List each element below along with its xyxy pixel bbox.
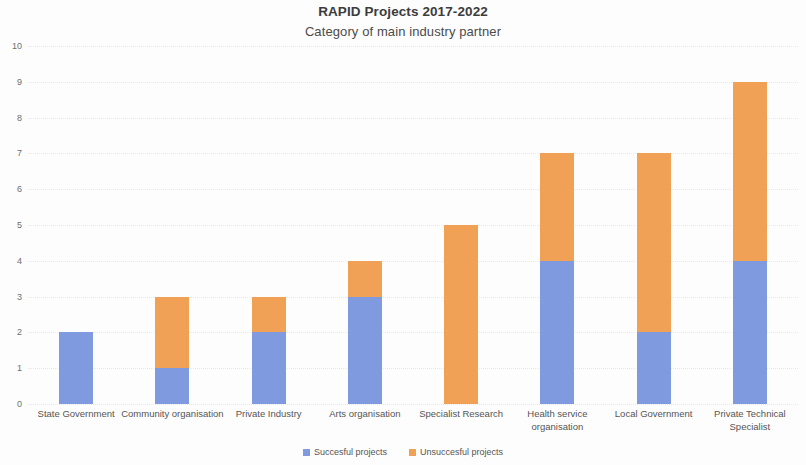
- gridline: [28, 404, 798, 406]
- y-axis-tick-label: 0: [17, 399, 22, 409]
- bar-segment-unsuccessful[interactable]: [733, 82, 767, 261]
- bar-group[interactable]: [59, 332, 93, 404]
- chart-title: RAPID Projects 2017-2022: [0, 4, 806, 21]
- bar-series-container: [28, 46, 798, 404]
- chart-page: RAPID Projects 2017-2022 Category of mai…: [0, 0, 806, 465]
- chart-subtitle: Category of main industry partner: [0, 24, 806, 40]
- y-axis: 109876543210: [0, 46, 26, 404]
- bar-group[interactable]: [733, 82, 767, 404]
- x-axis: State GovernmentCommunity organisationPr…: [28, 408, 798, 448]
- legend-swatch-icon: [409, 449, 416, 456]
- bar-segment-successful[interactable]: [733, 261, 767, 404]
- x-axis-tick-label: Community organisation: [120, 408, 224, 421]
- x-axis-tick-label: Private Technical Specialist: [698, 408, 802, 434]
- x-axis-tick-label: Arts organisation: [313, 408, 417, 421]
- bar-group[interactable]: [155, 297, 189, 404]
- bar-group[interactable]: [252, 297, 286, 404]
- y-axis-tick-label: 5: [17, 220, 22, 230]
- x-axis-tick-label: Health service organisation: [505, 408, 609, 434]
- bar-group[interactable]: [444, 225, 478, 404]
- y-axis-tick-label: 10: [12, 41, 22, 51]
- bar-group[interactable]: [540, 153, 574, 404]
- bar-segment-unsuccessful[interactable]: [540, 153, 574, 260]
- x-axis-tick-label: Private Industry: [217, 408, 321, 421]
- y-axis-tick-label: 8: [17, 113, 22, 123]
- bar-segment-successful[interactable]: [155, 368, 189, 404]
- bar-segment-successful[interactable]: [252, 332, 286, 404]
- bar-segment-successful[interactable]: [637, 332, 671, 404]
- x-axis-tick-label: Local Government: [602, 408, 706, 421]
- bar-group[interactable]: [637, 153, 671, 404]
- x-axis-tick-label: State Government: [24, 408, 128, 421]
- y-axis-tick-label: 4: [17, 256, 22, 266]
- bar-segment-successful[interactable]: [348, 297, 382, 404]
- chart-legend: Succesful projectsUnsuccesful projects: [0, 447, 806, 457]
- bar-segment-successful[interactable]: [59, 332, 93, 404]
- bar-segment-unsuccessful[interactable]: [444, 225, 478, 404]
- bar-segment-unsuccessful[interactable]: [637, 153, 671, 332]
- legend-label: Unsuccesful projects: [420, 447, 503, 457]
- y-axis-tick-label: 7: [17, 148, 22, 158]
- bar-segment-unsuccessful[interactable]: [348, 261, 382, 297]
- y-axis-tick-label: 6: [17, 184, 22, 194]
- chart-title-block: RAPID Projects 2017-2022 Category of mai…: [0, 4, 806, 40]
- y-axis-tick-label: 2: [17, 327, 22, 337]
- legend-item[interactable]: Succesful projects: [303, 447, 387, 457]
- bar-segment-successful[interactable]: [540, 261, 574, 404]
- y-axis-tick-label: 9: [17, 77, 22, 87]
- legend-label: Succesful projects: [314, 447, 387, 457]
- y-axis-tick-label: 3: [17, 292, 22, 302]
- plot-area: [28, 46, 798, 404]
- x-axis-tick-label: Specialist Research: [409, 408, 513, 421]
- legend-item[interactable]: Unsuccesful projects: [409, 447, 503, 457]
- bar-segment-unsuccessful[interactable]: [155, 297, 189, 369]
- bar-segment-unsuccessful[interactable]: [252, 297, 286, 333]
- bar-group[interactable]: [348, 261, 382, 404]
- y-axis-tick-label: 1: [17, 363, 22, 373]
- legend-swatch-icon: [303, 449, 310, 456]
